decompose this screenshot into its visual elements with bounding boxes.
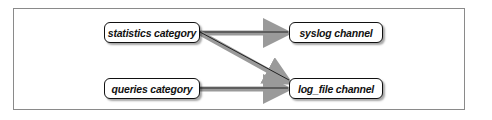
node-syslog-channel: syslog channel <box>289 22 383 43</box>
arrow-queries-to-log-file <box>200 88 288 89</box>
node-log-file-channel: log_file channel <box>289 78 383 99</box>
node-label: syslog channel <box>299 27 372 39</box>
node-label: log_file channel <box>298 83 374 95</box>
node-statistics-category: statistics category <box>104 22 200 43</box>
arrows-layer <box>0 0 492 120</box>
arrow-statistics-to-log-file <box>200 32 289 80</box>
arrow-statistics-to-syslog <box>200 32 288 33</box>
node-label: queries category <box>112 83 193 95</box>
node-queries-category: queries category <box>104 78 200 99</box>
node-label: statistics category <box>108 27 196 39</box>
